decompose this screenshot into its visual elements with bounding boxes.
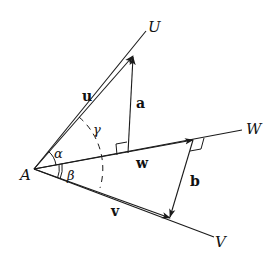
point-label-a: A <box>18 166 31 184</box>
point-label-u: U <box>148 18 162 36</box>
vector-projection-diagram: A U W V u a w b v α β γ <box>0 0 274 263</box>
vector-label-v: v <box>110 203 120 219</box>
vector-label-b: b <box>190 173 200 189</box>
angle-label-beta: β <box>66 168 75 183</box>
vector-label-a: a <box>136 95 145 111</box>
vector-label-u: u <box>82 88 92 104</box>
angle-beta-arc-inner <box>58 165 60 179</box>
vector-label-w: w <box>135 155 149 171</box>
vector-a-arrow <box>128 57 133 153</box>
point-label-w: W <box>246 120 263 138</box>
angle-label-gamma: γ <box>93 122 101 137</box>
angle-label-alpha: α <box>54 146 63 161</box>
point-label-v: V <box>215 233 228 251</box>
angle-beta-arc-outer <box>60 164 62 179</box>
